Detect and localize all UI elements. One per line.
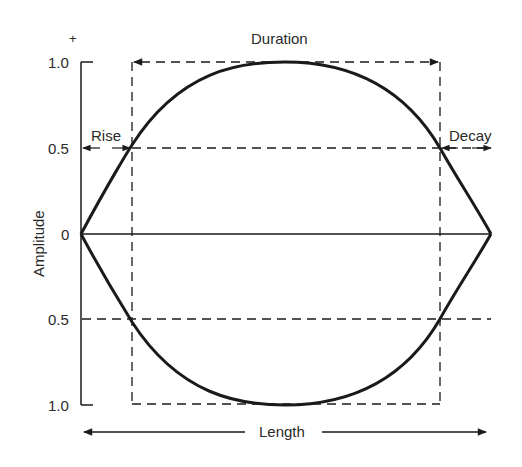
rise-label: Rise xyxy=(91,127,121,144)
duration-label: Duration xyxy=(251,30,308,47)
y-axis-label: Amplitude xyxy=(30,210,47,277)
y-tick-zero: 0 xyxy=(61,226,69,243)
length-label: Length xyxy=(259,423,305,440)
y-tick-top-1: 1.0 xyxy=(48,54,69,71)
envelope-diagram xyxy=(0,0,522,467)
plus-marker: + xyxy=(69,31,77,46)
decay-label: Decay xyxy=(449,127,492,144)
y-tick-bottom-1: 1.0 xyxy=(48,397,69,414)
duration-box xyxy=(82,62,491,404)
y-tick-top-05: 0.5 xyxy=(48,140,69,157)
y-tick-bottom-05: 0.5 xyxy=(48,311,69,328)
